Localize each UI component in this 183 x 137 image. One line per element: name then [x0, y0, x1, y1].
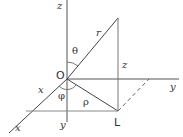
phi-label: φ	[58, 91, 65, 101]
theta-label: θ	[72, 46, 78, 56]
theta-arc	[67, 62, 78, 66]
diagram-lines	[0, 0, 183, 137]
z-axis-label: z	[57, 1, 62, 11]
x-axis-upper-label: x	[38, 85, 44, 95]
y-length-label: y	[60, 120, 66, 130]
y-axis-label: y	[170, 82, 176, 92]
r-label: r	[96, 28, 101, 38]
x-axis-lower-label: x	[15, 123, 21, 133]
z-height-label: z	[122, 60, 127, 70]
point-l-label: L	[114, 117, 120, 128]
rho-label: ρ	[83, 97, 89, 107]
origin-label: O	[56, 70, 65, 81]
dashed-projection-line	[118, 79, 149, 111]
coordinate-diagram: z θ r O z x φ ρ y x y L	[0, 0, 183, 137]
rho-line	[67, 79, 118, 111]
